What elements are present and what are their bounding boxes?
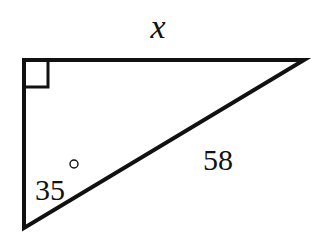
hypotenuse-label: 58 bbox=[203, 143, 233, 176]
angle-value-label: 35 bbox=[35, 173, 65, 206]
right-triangle-diagram: x 58 35 bbox=[0, 0, 325, 241]
top-side-label: x bbox=[149, 8, 165, 45]
triangle-outline bbox=[24, 60, 304, 228]
degree-symbol bbox=[70, 160, 78, 168]
right-angle-marker bbox=[24, 60, 48, 87]
